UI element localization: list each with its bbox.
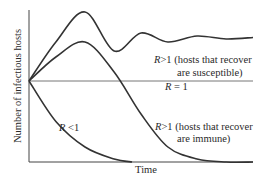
label-r-lt-1: R <1 <box>58 122 79 133</box>
series-line-r-lt-1 <box>29 81 132 162</box>
y-axis-label: Number of infectious hosts <box>12 29 23 143</box>
label-immune-line2: are immune) <box>177 133 231 145</box>
label-susceptible-line1: R>1 (hosts that recover <box>153 54 252 66</box>
label-susceptible-line2: are susceptible) <box>177 67 243 79</box>
x-axis-label: Time <box>135 164 157 175</box>
epidemic-chart: Number of infectious hosts Time R>1 (hos… <box>0 0 267 184</box>
label-r-equals-1: R = 1 <box>164 81 188 92</box>
label-immune-line1: R>1 (hosts that recover <box>154 121 253 133</box>
